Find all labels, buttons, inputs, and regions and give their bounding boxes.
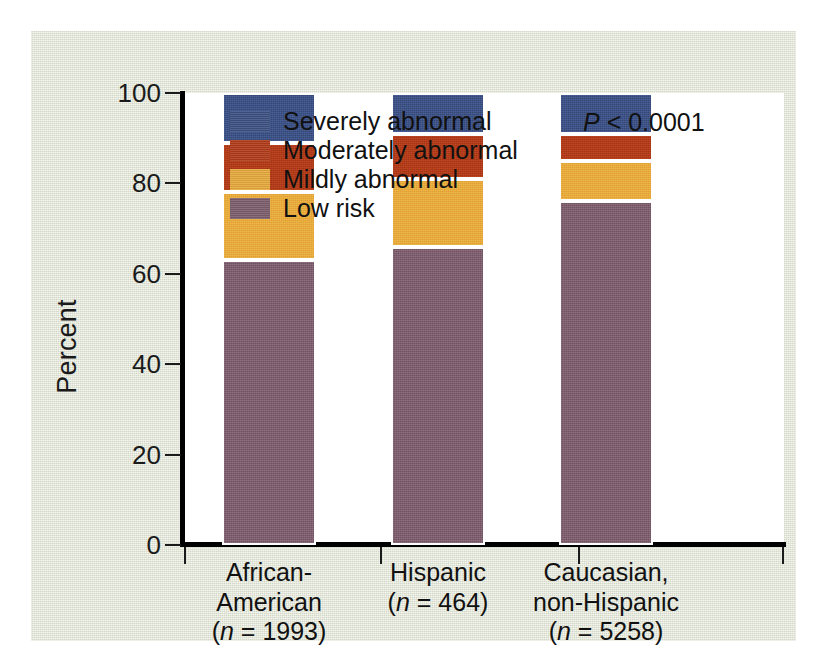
p-symbol: P xyxy=(583,108,600,136)
figure-container: Percent 020406080100 African-American(n … xyxy=(0,0,823,660)
bar-segment-low-risk xyxy=(559,201,653,545)
y-axis-title: Percent xyxy=(52,257,83,437)
legend-label: Low risk xyxy=(283,196,375,221)
legend-swatch-icon xyxy=(230,111,270,132)
bar-segment-low-risk xyxy=(391,247,485,545)
p-value-text: < 0.0001 xyxy=(600,108,705,136)
legend-label: Mildly abnormal xyxy=(283,167,458,192)
x-category-label-3: Caucasian,non-Hispanic(n = 5258) xyxy=(501,558,711,647)
category-sample-size: (n = 5258) xyxy=(501,617,711,647)
y-axis-tick xyxy=(165,273,181,275)
bar-segment-mildly-abnormal xyxy=(559,161,653,202)
category-name-line1: Caucasian, xyxy=(501,558,711,588)
y-axis-tick xyxy=(165,544,181,546)
legend-item-low-risk: Low risk xyxy=(230,194,518,223)
legend-item-mildly-abnormal: Mildly abnormal xyxy=(230,165,518,194)
legend-item-severely-abnormal: Severely abnormal xyxy=(230,107,518,136)
y-axis-tick-label: 40 xyxy=(91,351,161,377)
legend-label: Severely abnormal xyxy=(283,109,491,134)
x-axis-tick xyxy=(782,547,784,564)
legend-swatch-icon xyxy=(230,140,270,161)
legend-swatch-icon xyxy=(230,198,270,219)
y-axis-tick xyxy=(165,92,181,94)
y-axis-tick-label: 100 xyxy=(91,80,161,106)
bar-3 xyxy=(559,93,653,545)
legend-item-moderately-abnormal: Moderately abnormal xyxy=(230,136,518,165)
y-axis-tick xyxy=(165,454,181,456)
figure-panel: Percent 020406080100 African-American(n … xyxy=(31,31,796,641)
y-axis-tick-label: 20 xyxy=(91,442,161,468)
category-sample-size: (n = 1993) xyxy=(164,617,374,647)
p-value-annotation: P < 0.0001 xyxy=(583,108,705,137)
bar-segment-low-risk xyxy=(222,260,316,545)
y-axis-tick-label: 60 xyxy=(91,261,161,287)
y-axis-tick-label: 80 xyxy=(91,170,161,196)
y-axis-labels: 020406080100 xyxy=(83,31,161,641)
legend-swatch-icon xyxy=(230,169,270,190)
legend-label: Moderately abnormal xyxy=(283,138,518,163)
y-axis-tick xyxy=(165,363,181,365)
category-name-line2: non-Hispanic xyxy=(501,588,711,618)
y-axis-tick-label: 0 xyxy=(91,532,161,558)
bar-segment-moderately-abnormal xyxy=(559,134,653,161)
y-axis-tick xyxy=(165,182,181,184)
legend: Severely abnormalModerately abnormalMild… xyxy=(230,107,518,223)
